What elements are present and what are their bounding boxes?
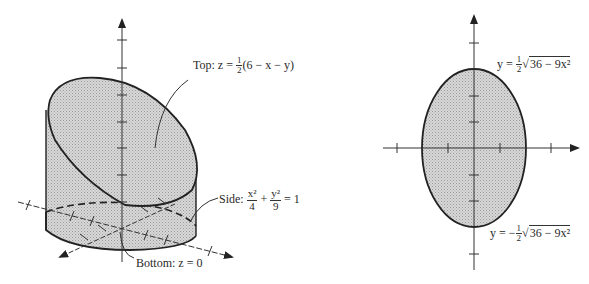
top-surface-label: Top: z = 12(6 − x − y) — [193, 56, 294, 76]
upper-curve-label: y = 12√36 − 9x² — [497, 55, 570, 75]
lower-curve-label: y = −12√36 − 9x² — [490, 224, 570, 244]
bottom-surface-label: Bottom: z = 0 — [136, 257, 202, 269]
side-surface-label: Side: x²4 + y²9 = 1 — [219, 188, 300, 212]
